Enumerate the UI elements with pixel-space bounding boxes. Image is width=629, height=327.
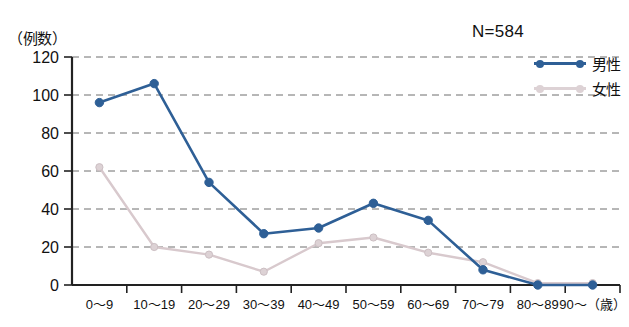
y-tick-label: 20: [41, 239, 59, 256]
x-tick-label: 90〜（歳）: [559, 297, 625, 312]
y-tick-label: 80: [41, 125, 59, 142]
x-tick-label: 20〜29: [188, 297, 230, 312]
data-point-female: [370, 234, 377, 241]
chart-legend: 男性 女性: [534, 52, 621, 99]
data-point-female: [315, 240, 322, 247]
data-point-female: [205, 251, 212, 258]
x-tick-label: 30〜39: [243, 297, 285, 312]
x-tick-label: 50〜59: [352, 297, 394, 312]
data-point-male: [479, 266, 487, 274]
x-tick-label: 10〜19: [133, 297, 175, 312]
legend-swatch-female: [534, 82, 586, 94]
y-tick-label: 40: [41, 201, 59, 218]
x-axis-tick-labels: 0〜910〜1920〜2930〜3940〜4950〜5960〜6970〜7980…: [86, 297, 626, 312]
data-point-female: [151, 243, 158, 250]
y-tick-label: 60: [41, 163, 59, 180]
legend-item-male: 男性: [534, 52, 621, 74]
legend-swatch-male: [534, 57, 586, 69]
data-point-male: [260, 230, 268, 238]
y-axis-ticks: [64, 57, 72, 285]
x-tick-label: 80〜89: [517, 297, 559, 312]
data-point-male: [424, 216, 432, 224]
data-point-female: [260, 268, 267, 275]
data-point-male: [588, 281, 596, 289]
y-tick-label: 0: [50, 277, 59, 294]
series-line-male: [99, 84, 592, 285]
x-tick-label: 40〜49: [298, 297, 340, 312]
age-distribution-line-chart: （例数） N=584 020406080100120 0〜910〜1920〜29…: [0, 0, 629, 327]
y-axis-tick-labels: 020406080100120: [32, 49, 59, 294]
data-point-male: [534, 281, 542, 289]
legend-label-male: 男性: [592, 53, 621, 74]
data-point-male: [369, 199, 377, 207]
data-point-female: [96, 164, 103, 171]
y-tick-label: 100: [32, 87, 59, 104]
data-point-female: [425, 249, 432, 256]
x-tick-label: 70〜79: [462, 297, 504, 312]
data-point-male: [95, 98, 103, 106]
legend-item-female: 女性: [534, 77, 621, 99]
data-point-male: [314, 224, 322, 232]
legend-label-female: 女性: [592, 78, 621, 99]
x-tick-label: 0〜9: [86, 297, 113, 312]
data-point-male: [205, 178, 213, 186]
data-point-male: [150, 79, 158, 87]
series-line-female: [99, 167, 592, 283]
y-tick-label: 120: [32, 49, 59, 66]
plot-area: 020406080100120 0〜910〜1920〜2930〜3940〜495…: [0, 0, 629, 327]
x-tick-label: 60〜69: [407, 297, 449, 312]
data-series: [95, 79, 597, 289]
data-point-female: [479, 259, 486, 266]
